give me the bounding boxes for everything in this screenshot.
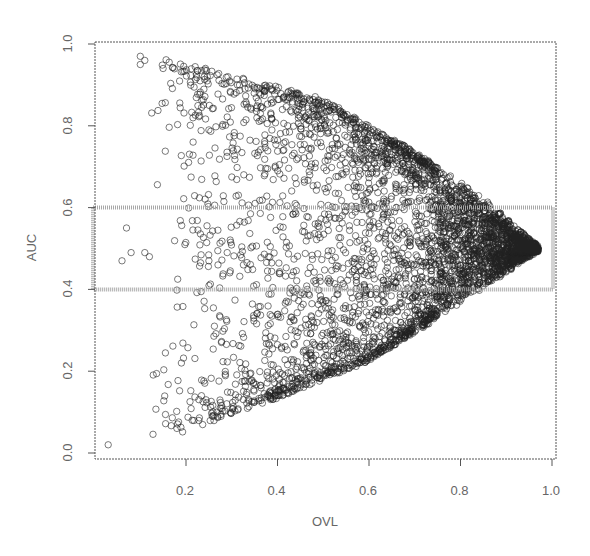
x-tick-label: 1.0 <box>542 483 560 498</box>
scatter-plot <box>0 0 590 556</box>
x-tick-label: 0.6 <box>359 483 377 498</box>
y-tick-label: 0.4 <box>60 280 75 298</box>
x-tick-label: 0.4 <box>268 483 286 498</box>
y-tick-label: 1.0 <box>60 34 75 52</box>
y-axis-title: AUC <box>24 234 39 261</box>
y-tick-label: 0.0 <box>60 443 75 461</box>
y-tick-label: 0.6 <box>60 198 75 216</box>
data-points <box>105 53 541 448</box>
x-axis-title: OVL <box>312 514 338 529</box>
y-tick-label: 0.2 <box>60 362 75 380</box>
x-tick-label: 0.8 <box>451 483 469 498</box>
x-axis <box>186 459 552 466</box>
y-tick-label: 0.8 <box>60 116 75 134</box>
x-tick-label: 0.2 <box>176 483 194 498</box>
